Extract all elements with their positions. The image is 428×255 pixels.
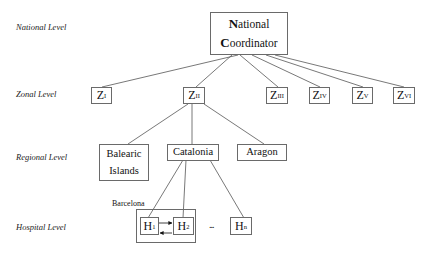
national-coordinator-node: National Coordinator xyxy=(210,12,288,55)
region-node-balearic-islands: Balearic Islands xyxy=(99,144,149,181)
zone-node-zII: ZII xyxy=(183,87,205,104)
edge-national-zIV xyxy=(252,55,320,87)
edge-national-zV xyxy=(266,55,363,87)
level-label-regional: Regional Level xyxy=(16,152,67,162)
zone-node-zVI: ZVI xyxy=(393,87,415,104)
region-node-catalonia: Catalonia xyxy=(167,144,219,161)
zone-node-zIII: ZIII xyxy=(266,87,288,104)
edge-national-zI xyxy=(102,55,238,87)
edge-national-zIII xyxy=(240,55,278,87)
zone-node-zIV: ZIV xyxy=(309,87,330,104)
level-label-zonal: Zonal Level xyxy=(16,89,56,99)
edge-zII-aragon xyxy=(204,104,264,144)
hospital-node-h2: H2 xyxy=(173,217,194,235)
edge-zII-balearic xyxy=(128,104,188,144)
edge-national-zII xyxy=(196,55,232,87)
coordinator-line-2: Coordinator xyxy=(220,34,277,53)
zone-node-zV: ZV xyxy=(352,87,373,104)
hospital-node-hn: Hn xyxy=(230,217,252,235)
ellipsis: ... xyxy=(209,219,214,230)
edge-national-zVI xyxy=(275,55,404,87)
region-node-aragon: Aragon xyxy=(237,144,287,161)
level-label-national: National Level xyxy=(16,22,66,32)
zone-node-zI: ZI xyxy=(91,87,112,104)
level-label-hospital: Hospital Level xyxy=(16,222,66,232)
coordinator-line-1: National xyxy=(229,15,270,34)
hospital-node-h1: H1 xyxy=(140,217,159,235)
hospital-group-label: Barcelona xyxy=(112,199,144,208)
edge-catalonia-hn xyxy=(210,160,244,218)
